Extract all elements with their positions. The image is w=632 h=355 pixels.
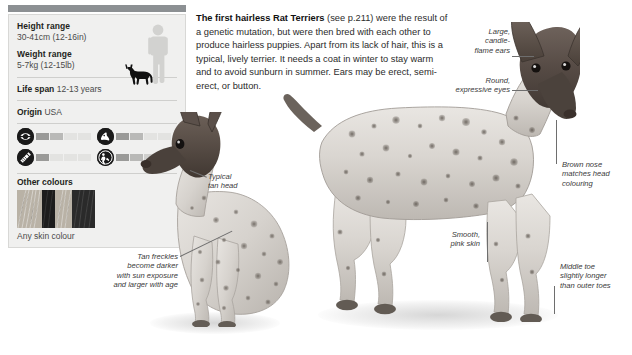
- leader-skin: [487, 222, 488, 262]
- height-range-value: 30-41cm (12-16in): [17, 32, 177, 43]
- bar: [64, 133, 77, 140]
- annotation-middle-toe: Middle toe slightly longer than outer to…: [560, 262, 630, 290]
- bar: [50, 133, 63, 140]
- bar: [64, 154, 77, 161]
- bar: [116, 133, 129, 140]
- rating-row-brushing: [17, 149, 97, 166]
- weight-range-block: Weight range 5-7kg (12-15lb): [17, 49, 177, 71]
- annotation-ears: Large, candle- flame ears: [452, 27, 510, 55]
- bar: [50, 154, 63, 161]
- sitting-dog-illustration: [132, 112, 302, 327]
- grooming-dog-icon: [97, 128, 114, 145]
- annotation-skin: Smooth, pink skin: [422, 230, 480, 249]
- bar: [78, 133, 91, 140]
- standing-dog-illustration: [270, 22, 580, 322]
- annotation-nose: Brown nose matches head colouring: [562, 160, 628, 188]
- leader-eyes: [512, 90, 538, 91]
- height-range-block: Height range 30-41cm (12-16in): [17, 21, 177, 43]
- coat-colour-swatch: [17, 190, 95, 228]
- bar: [36, 154, 49, 161]
- annotation-tan-head: Typical tan head: [208, 172, 270, 191]
- rating-row-exercise: [17, 128, 97, 145]
- height-range-label: Height range: [17, 21, 177, 32]
- origin-value: USA: [44, 107, 61, 117]
- divider: [17, 100, 177, 101]
- trainability-icon: [97, 149, 114, 166]
- bar: [36, 133, 49, 140]
- weight-range-value: 5-7kg (12-15lb): [17, 60, 177, 71]
- brush-icon: [17, 149, 34, 166]
- header-rule: [8, 5, 186, 12]
- annotation-freckles: Tan freckles become darker with sun expo…: [72, 252, 178, 290]
- leader-middle-toe: [554, 286, 555, 314]
- leader-ears: [512, 56, 534, 57]
- origin-label: Origin: [17, 107, 42, 117]
- leader-nose: [556, 120, 557, 164]
- bar: [78, 154, 91, 161]
- breed-profile-page: Height range 30-41cm (12-16in) Weight ra…: [0, 0, 632, 355]
- life-span-value: 12-13 years: [57, 84, 102, 94]
- rating-bars-exercise: [36, 133, 91, 140]
- bar: [116, 154, 129, 161]
- life-span-label: Life span: [17, 84, 54, 94]
- weight-range-label: Weight range: [17, 49, 177, 60]
- exercise-icon: [17, 128, 34, 145]
- annotation-eyes: Round, expressive eyes: [452, 76, 510, 95]
- rating-bars-brushing: [36, 154, 91, 161]
